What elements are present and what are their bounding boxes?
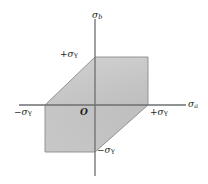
tick-label-negative-sigma-y-horizontal: −σY (14, 108, 32, 118)
sigma-subscript-negative-vertical: Y (111, 148, 115, 156)
sigma-subscript-positive-horizontal: Y (164, 110, 168, 118)
tick-label-positive-sigma-y-horizontal: +σY (150, 108, 168, 118)
sigma-a-axis-label: σa (188, 100, 198, 110)
sign-minus-vertical: − (97, 145, 105, 155)
plot-canvas (0, 0, 208, 184)
sign-minus-horizontal: − (14, 107, 22, 117)
tresca-yield-criterion-figure: σb σa +σY −σY +σY −σY O (0, 0, 208, 184)
origin-label: O (80, 108, 88, 117)
sign-plus-vertical: + (60, 49, 68, 59)
sigma-b-subscript: b (98, 13, 102, 21)
sign-plus-horizontal: + (150, 107, 158, 117)
sigma-b-axis-label: σb (92, 11, 102, 21)
sigma-subscript-positive-vertical: Y (74, 52, 78, 60)
sigma-subscript-negative-horizontal: Y (28, 110, 32, 118)
sigma-a-subscript: a (194, 102, 198, 110)
tick-label-negative-sigma-y-vertical: −σY (97, 146, 115, 156)
tick-label-positive-sigma-y-vertical: +σY (60, 50, 78, 60)
